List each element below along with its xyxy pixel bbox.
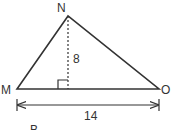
triangle-diagram: N M O 8 14 B xyxy=(0,0,172,130)
base-label: 14 xyxy=(84,109,98,123)
right-angle-marker xyxy=(58,80,68,89)
vertex-label-m: M xyxy=(1,83,11,97)
vertex-label-n: N xyxy=(57,1,66,15)
triangle-mno xyxy=(17,16,159,89)
altitude-label: 8 xyxy=(73,52,80,66)
figure-caption: B xyxy=(30,123,38,130)
vertex-label-o: O xyxy=(161,83,170,97)
